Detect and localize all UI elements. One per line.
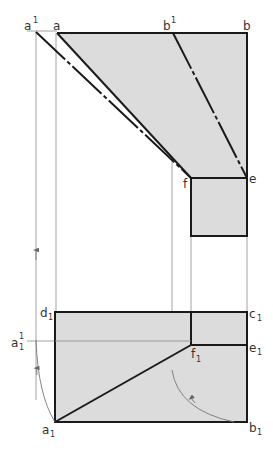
label-a1-1: a — [11, 336, 18, 350]
projection-diagram: a 1 a b 1 b f e d 1 c 1 a 1 1 f 1 e 1 a … — [0, 0, 273, 459]
label-a1-sup: a — [24, 19, 31, 33]
label-e1-subscript: 1 — [257, 348, 262, 357]
bottom-view — [55, 312, 247, 422]
label-f: f — [183, 177, 188, 191]
label-d1-subscript: 1 — [48, 313, 53, 322]
label-f1-subscript: 1 — [196, 355, 201, 364]
top-face — [57, 33, 247, 178]
arrow-a-lower — [37, 368, 38, 375]
label-a1-1-superscript: 1 — [19, 332, 24, 341]
label-c1: c — [249, 307, 256, 321]
label-b1-subscript: 1 — [257, 428, 262, 437]
label-a: a — [53, 19, 60, 33]
arc-a1 — [36, 340, 55, 422]
label-e: e — [249, 172, 256, 186]
label-a1-sup-superscript: 1 — [33, 16, 38, 25]
label-b1: b — [249, 421, 257, 435]
top-view — [36, 32, 247, 236]
label-b: b — [243, 19, 251, 33]
label-e1: e — [249, 341, 256, 355]
label-d1: d — [40, 306, 48, 320]
label-a1-subscript: 1 — [50, 430, 55, 439]
label-b1-sup: b — [163, 19, 171, 33]
label-a1: a — [42, 423, 49, 437]
label-b1-sup-superscript: 1 — [171, 16, 176, 25]
label-c1-subscript: 1 — [257, 314, 262, 323]
side-face — [191, 178, 247, 236]
label-a1-1-subscript: 1 — [19, 343, 24, 352]
